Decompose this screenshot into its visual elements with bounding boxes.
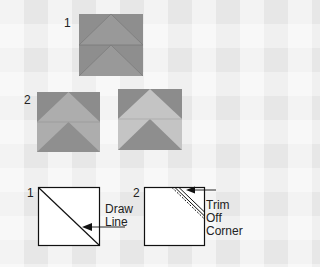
flying-geese-block-step-2-b	[118, 89, 182, 150]
step-1-label: 1	[64, 17, 71, 29]
bottom-step-2-label: 2	[133, 187, 140, 199]
draw-line-text: Draw Line	[105, 203, 133, 229]
trim-off-corner-text: Trim Off Corner	[206, 199, 243, 238]
flying-geese-block-step-1	[79, 14, 143, 76]
step-2-label: 2	[24, 94, 31, 106]
flying-geese-block-step-2-a	[37, 92, 100, 152]
bottom-step-1-label: 1	[27, 187, 34, 199]
